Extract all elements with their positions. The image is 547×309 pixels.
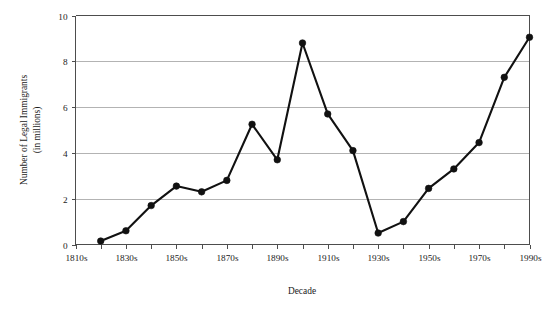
x-tick-label-1950s: 1950s	[419, 253, 441, 263]
axis-frame	[76, 16, 530, 245]
y-tick-labels: 0246810	[58, 12, 68, 251]
data-point-1930s	[375, 230, 382, 237]
y-tick-label-2: 2	[63, 195, 68, 205]
x-axis-title: Decade	[288, 286, 316, 296]
x-tick-group	[77, 245, 531, 249]
x-tick-labels: 1810s1830s1850s1870s1890s1910s1930s1950s…	[66, 253, 542, 263]
x-tick-label-1930s: 1930s	[368, 253, 390, 263]
x-tick-label-1910s: 1910s	[318, 253, 340, 263]
data-line-legal-immigrants	[101, 37, 530, 241]
data-point-1860s	[198, 189, 205, 196]
y-tick-label-10: 10	[58, 12, 68, 22]
y-tick-label-8: 8	[63, 57, 68, 67]
x-tick-label-1850s: 1850s	[166, 253, 188, 263]
y-axis-title-line2: (in millions)	[32, 107, 43, 154]
x-tick-label-1970s: 1970s	[469, 253, 491, 263]
y-axis-title: Number of Legal Immigrants (in millions)	[19, 75, 43, 185]
data-point-1960s	[451, 166, 458, 173]
y-tick-label-0: 0	[63, 241, 68, 251]
data-point-1940s	[400, 218, 407, 225]
data-point-1910s	[324, 111, 331, 118]
y-axis-title-line1: Number of Legal Immigrants	[19, 75, 29, 185]
data-point-1840s	[148, 202, 155, 209]
data-point-1970s	[476, 139, 483, 146]
x-tick-label-1810s: 1810s	[66, 253, 88, 263]
data-point-1920s	[350, 147, 357, 154]
data-point-1830s	[123, 227, 130, 234]
y-tick-group	[72, 17, 76, 246]
line-chart: 0246810 1810s1830s1850s1870s1890s1910s19…	[0, 0, 547, 309]
data-point-1870s	[224, 177, 231, 184]
data-point-1900s	[299, 40, 306, 47]
data-point-1880s	[249, 121, 256, 128]
data-point-1990s	[526, 34, 533, 41]
x-tick-label-1890s: 1890s	[267, 253, 289, 263]
gridlines-group	[76, 62, 530, 200]
x-tick-label-1990s: 1990s	[520, 253, 542, 263]
data-point-1820s	[97, 238, 104, 245]
data-point-1890s	[274, 156, 281, 163]
y-tick-label-4: 4	[63, 149, 68, 159]
x-tick-label-1870s: 1870s	[217, 253, 239, 263]
data-point-1950s	[425, 185, 432, 192]
chart-figure: 0246810 1810s1830s1850s1870s1890s1910s19…	[0, 0, 547, 309]
data-point-group	[97, 34, 532, 244]
y-tick-label-6: 6	[63, 103, 68, 113]
data-point-1850s	[173, 183, 180, 190]
data-point-1980s	[501, 74, 508, 81]
x-tick-label-1830s: 1830s	[116, 253, 138, 263]
